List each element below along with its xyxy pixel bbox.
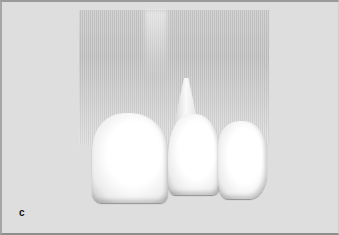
central-incisor	[92, 113, 168, 203]
panel-label: c	[19, 207, 25, 218]
gingiva-highlight	[145, 10, 167, 80]
canine	[218, 121, 267, 199]
dental-illustration: c	[0, 0, 339, 235]
lateral-incisor	[168, 114, 220, 195]
